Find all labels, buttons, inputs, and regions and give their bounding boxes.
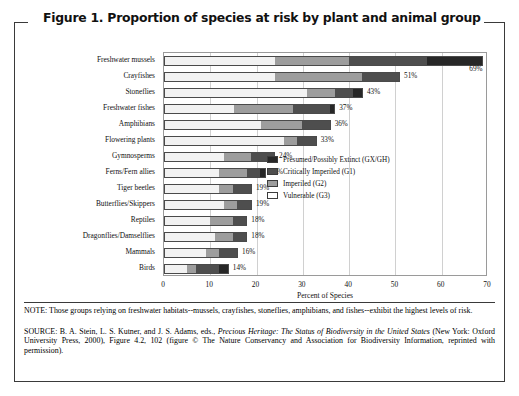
- source-prefix: SOURCE: B. A. Stein, L. S. Kutner, and J…: [24, 327, 218, 336]
- bar-segment-g2: [210, 217, 233, 225]
- category-label: Amphibians: [119, 119, 155, 129]
- stacked-bar[interactable]: [164, 248, 238, 258]
- category-label: Birds: [139, 263, 155, 273]
- bar-segment-g2: [215, 233, 233, 241]
- legend-label: Critically Imperiled (G1): [283, 168, 355, 176]
- category-label: Gymnosperms: [112, 151, 155, 161]
- bar-segment-g1: [196, 265, 218, 273]
- stacked-bar[interactable]: [164, 200, 252, 210]
- stacked-bar[interactable]: [164, 168, 266, 178]
- bar-segment-g3: [165, 233, 215, 241]
- stacked-bar[interactable]: [164, 152, 275, 162]
- bar-row: 18%: [164, 216, 486, 226]
- bar-segment-g1: [362, 73, 399, 81]
- bar-segment-g1: [219, 249, 237, 257]
- bar-segment-g3: [165, 265, 187, 273]
- bar-segment-g2: [219, 169, 246, 177]
- bar-segment-g3: [165, 137, 284, 145]
- stacked-bar[interactable]: [164, 72, 400, 82]
- note-paragraph: NOTE: Those groups relying on freshwater…: [24, 306, 495, 316]
- notes-divider: [24, 302, 495, 303]
- category-label: Butterflies/Skippers: [96, 199, 155, 209]
- bar-segment-g2: [224, 153, 251, 161]
- legend-swatch: [267, 168, 278, 175]
- category-label: Stoneflies: [125, 87, 155, 97]
- bar-value-label: 37%: [339, 103, 352, 114]
- x-tick-label: 40: [344, 280, 351, 289]
- x-axis: Percent of Species 010203040506070: [163, 276, 487, 302]
- legend-label: Vulnerable (G3): [283, 192, 330, 200]
- stacked-bar[interactable]: [164, 232, 247, 242]
- category-label: Freshwater mussels: [97, 55, 155, 65]
- bar-segment-g3: [165, 185, 219, 193]
- bar-segment-g1: [233, 185, 251, 193]
- legend-swatch: [267, 180, 278, 187]
- stacked-bar[interactable]: [164, 104, 335, 114]
- bar-row: 43%: [164, 88, 486, 98]
- x-tick-label: 70: [483, 280, 490, 289]
- category-label: Reptiles: [131, 215, 155, 225]
- bar-value-label: 18%: [251, 231, 264, 242]
- legend-swatch: [267, 156, 278, 163]
- bar-row: 69%: [164, 56, 486, 66]
- bar-segment-g1: [293, 105, 330, 113]
- bar-row: 37%: [164, 104, 486, 114]
- legend-item[interactable]: Presumed/Possibly Extinct (GX/GH): [267, 154, 442, 165]
- bar-segment-g2: [187, 265, 196, 273]
- legend-item[interactable]: Vulnerable (G3): [267, 190, 442, 201]
- bar-segment-g3: [165, 89, 307, 97]
- bar-segment-g3: [165, 217, 210, 225]
- bar-row: 36%: [164, 120, 486, 130]
- bar-segment-g3: [165, 105, 234, 113]
- bar-value-label: 36%: [335, 119, 348, 130]
- stacked-bar[interactable]: [164, 184, 252, 194]
- x-axis-title: Percent of Species: [163, 291, 487, 300]
- x-tick-label: 0: [161, 280, 165, 289]
- bar-value-label: 18%: [251, 215, 264, 226]
- source-title-italic: Precious Heritage: The Status of Biodive…: [218, 327, 430, 336]
- stacked-bar[interactable]: [164, 120, 331, 130]
- category-label: Freshwater fishes: [103, 103, 155, 113]
- stacked-bar[interactable]: [164, 136, 317, 146]
- bar-segment-gx: [353, 89, 362, 97]
- frame-border-bottom: [14, 381, 505, 382]
- bar-segment-gx: [260, 169, 265, 177]
- source-paragraph: SOURCE: B. A. Stein, L. S. Kutner, and J…: [24, 327, 495, 356]
- legend-item[interactable]: Critically Imperiled (G1): [267, 166, 442, 177]
- legend-label: Presumed/Possibly Extinct (GX/GH): [283, 156, 390, 164]
- bar-segment-gx: [330, 105, 335, 113]
- x-tick-label: 60: [437, 280, 444, 289]
- stacked-bar[interactable]: [164, 216, 247, 226]
- bar-segment-g2: [275, 73, 362, 81]
- stacked-bar[interactable]: [164, 88, 363, 98]
- bar-segment-g1: [297, 137, 315, 145]
- category-label: Flowering plants: [105, 135, 155, 145]
- bar-row: 18%: [164, 232, 486, 242]
- bar-segment-g3: [165, 73, 275, 81]
- legend-swatch: [267, 192, 278, 199]
- bar-segment-g3: [165, 169, 219, 177]
- bar-segment-g2: [307, 89, 334, 97]
- bar-segment-g2: [275, 57, 349, 65]
- bar-value-label: 51%: [404, 71, 417, 82]
- legend-item[interactable]: Imperiled (G2): [267, 178, 442, 189]
- x-tick-label: 20: [252, 280, 259, 289]
- chart-container: Freshwater musselsCrayfishesStonefliesFr…: [14, 22, 505, 300]
- bar-segment-g2: [206, 249, 220, 257]
- category-label: Mammals: [125, 247, 155, 257]
- bar-value-label: 43%: [367, 87, 380, 98]
- bar-row: 16%: [164, 248, 486, 258]
- bar-segment-g3: [165, 201, 224, 209]
- bar-segment-g2: [224, 201, 238, 209]
- bar-segment-g2: [219, 185, 233, 193]
- bar-segment-g1: [233, 233, 247, 241]
- legend-label: Imperiled (G2): [283, 180, 326, 188]
- bar-segment-g1: [247, 169, 261, 177]
- stacked-bar[interactable]: [164, 264, 229, 274]
- stacked-bar[interactable]: [164, 56, 483, 66]
- category-label: Tiger beetles: [117, 183, 155, 193]
- x-tick-label: 30: [298, 280, 305, 289]
- bar-segment-g2: [284, 137, 298, 145]
- bar-row: 14%: [164, 264, 486, 274]
- bar-segment-g1: [349, 57, 427, 65]
